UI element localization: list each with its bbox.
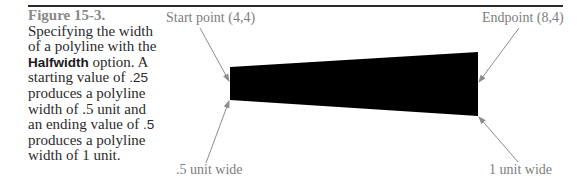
start-point-leader [200, 28, 229, 81]
end-width-leader [479, 117, 518, 162]
endpoint-label: Endpoint (8,4) [482, 10, 564, 26]
endpoint-leader [479, 28, 519, 82]
end-width-label: 1 unit wide [489, 162, 552, 178]
start-width-label: .5 unit wide [176, 162, 243, 178]
polyline-diagram [0, 0, 588, 187]
start-point-label: Start point (4,4) [166, 10, 255, 26]
start-width-leader [206, 101, 229, 163]
tapered-polyline [230, 52, 478, 116]
